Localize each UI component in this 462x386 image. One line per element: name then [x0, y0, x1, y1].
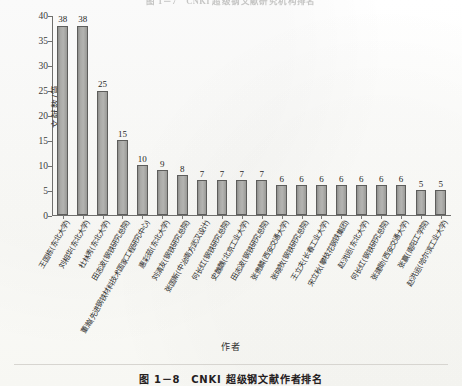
bar	[416, 190, 427, 215]
bar-slot: 15	[113, 16, 133, 215]
bar-slot: 6	[272, 16, 292, 215]
bar	[117, 140, 128, 215]
bar	[376, 185, 387, 215]
bar-series: 3838251510987777666666655	[53, 16, 451, 215]
bar	[217, 180, 228, 215]
bar-slot: 8	[172, 16, 192, 215]
bar	[276, 185, 287, 215]
bar-slot: 6	[371, 16, 391, 215]
page-rule	[14, 364, 448, 365]
bar-chart-plot-area: 0510152025303540 文献数/篇 38382515109877776…	[52, 16, 451, 216]
bar	[157, 170, 168, 215]
bar-slot: 6	[332, 16, 352, 215]
bar-value-label: 5	[427, 179, 454, 189]
y-axis-tick-label: 5	[22, 186, 48, 196]
previous-figure-caption-cropped: 图 1－7 CNKI 超级钢文献研究机构排名	[0, 0, 462, 6]
bar	[356, 185, 367, 215]
y-axis-tick-mark	[48, 141, 52, 142]
bar-slot: 6	[312, 16, 332, 215]
bar-slot: 38	[73, 16, 93, 215]
bar-slot: 7	[252, 16, 272, 215]
bar	[177, 175, 188, 215]
bar-slot: 7	[232, 16, 252, 215]
bar	[197, 180, 208, 215]
y-axis-tick-label: 20	[22, 111, 48, 121]
bar-slot: 5	[431, 16, 451, 215]
scanned-book-page: 图 1－7 CNKI 超级钢文献研究机构排名 0510152025303540 …	[0, 0, 462, 386]
y-axis-tick-label: 15	[22, 136, 48, 146]
bar	[77, 26, 88, 215]
bar-slot: 9	[153, 16, 173, 215]
x-axis-line	[52, 215, 451, 216]
bar-slot: 10	[133, 16, 153, 215]
bar-slot: 6	[292, 16, 312, 215]
bar-slot: 6	[352, 16, 372, 215]
bar	[336, 185, 347, 215]
y-axis-tick-label: 35	[22, 36, 48, 46]
bar	[256, 180, 267, 215]
bar-slot: 38	[53, 16, 73, 215]
y-axis-tick-mark	[48, 191, 52, 192]
y-axis-tick-label: 0	[22, 211, 48, 221]
y-axis-tick-mark	[48, 166, 52, 167]
y-axis-tick-mark	[48, 41, 52, 42]
bar	[236, 180, 247, 215]
y-axis-tick-mark	[48, 66, 52, 67]
bar	[396, 185, 407, 215]
bar	[435, 190, 446, 215]
bar	[97, 91, 108, 215]
bar	[296, 185, 307, 215]
y-axis-tick-mark	[48, 216, 52, 217]
bar	[137, 165, 148, 215]
figure-caption: 图 1－8 CNKI 超级钢文献作者排名	[0, 371, 462, 386]
x-axis-title: 作者	[0, 340, 462, 353]
bar	[316, 185, 327, 215]
bar	[57, 26, 68, 215]
y-axis-tick-label: 10	[22, 161, 48, 171]
x-axis-category-labels: 王国栋(东北大学)刘相华(东北大学)杜林秀(东北大学)田志波(钢铁研究总院)董瀚…	[53, 219, 452, 337]
y-axis-tick-label: 40	[22, 11, 48, 21]
bar-slot: 7	[212, 16, 232, 215]
y-axis-tick-label: 25	[22, 86, 48, 96]
y-axis-tick-label: 30	[22, 61, 48, 71]
bar-slot: 25	[93, 16, 113, 215]
bar-slot: 7	[192, 16, 212, 215]
